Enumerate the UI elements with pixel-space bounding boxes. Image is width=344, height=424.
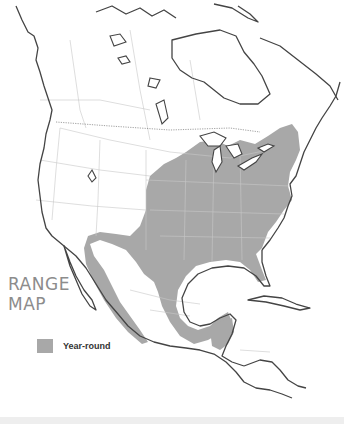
year-round-swatch [37, 339, 53, 353]
us-canada-border [56, 122, 260, 132]
range-map [0, 0, 344, 424]
title-line-1: RANGE [8, 274, 70, 294]
legend: Year-round [37, 339, 111, 353]
canadian-lakes [88, 34, 168, 182]
legend-label-year-round: Year-round [63, 341, 111, 351]
range-map-title: RANGE MAP [8, 274, 70, 314]
year-round-range [84, 124, 300, 350]
title-line-2: MAP [8, 294, 70, 314]
footer-bar [0, 417, 344, 424]
